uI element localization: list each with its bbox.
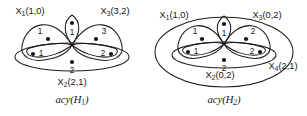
vertex-label-bottom: 2 xyxy=(70,66,75,75)
hyperedge-label-x3: X3(0,2) xyxy=(253,10,282,20)
vertex-label-lower-right: 2 xyxy=(250,47,255,56)
diagram-panel-right: 1 1 2 1 2 2 X1(1,0) X3(0,2) X4(2,1) X2(0… xyxy=(152,0,307,116)
panel-caption-right-text: acy(H xyxy=(207,94,234,106)
hyperedge-label-x2: X2(0,2) xyxy=(206,70,235,80)
hyperedge-label-x3-args: (0,2) xyxy=(262,10,281,20)
hyperedge-label-x2-args: (2,1) xyxy=(67,77,86,87)
diagram-panel-left: 1 1 3 1 2 2 X1(1,0) X3(3,2) X2(2,1) acy(… xyxy=(0,0,152,116)
hyperedge-label-x4: X4(2,1) xyxy=(269,61,298,71)
hyperedge-label-x1-args: (1,0) xyxy=(169,10,188,20)
vertex-label-upper-left: 1 xyxy=(38,27,43,36)
vertex-lower-left xyxy=(186,50,190,54)
vertex-top xyxy=(70,21,74,25)
vertex-label-lower-right: 2 xyxy=(101,49,106,58)
vertex-label-top: 1 xyxy=(70,28,75,37)
vertex-label-lower-left: 1 xyxy=(194,47,199,56)
vertex-upper-right xyxy=(244,37,248,41)
hypergraph-acyclicity-figure: 1 1 3 1 2 2 X1(1,0) X3(3,2) X2(2,1) acy(… xyxy=(0,0,307,116)
panel-caption-right: acy(H2) xyxy=(207,94,241,107)
panel-caption-left: acy(H1) xyxy=(55,94,89,107)
vertex-upper-left xyxy=(46,37,50,41)
vertex-label-lower-left: 1 xyxy=(39,49,44,58)
vertex-upper-right xyxy=(94,37,98,41)
hyperedge-label-x2: X2(2,1) xyxy=(58,77,87,87)
vertex-upper-left xyxy=(200,37,204,41)
vertex-lower-right xyxy=(109,52,113,56)
hyperedge-label-x1: X1(1,0) xyxy=(16,6,45,16)
vertex-label-top: 1 xyxy=(222,29,227,38)
vertex-lower-left xyxy=(31,52,35,56)
panel-caption-left-tail: ) xyxy=(84,94,89,106)
diagram-svg-left: 1 1 3 1 2 2 X1(1,0) X3(3,2) X2(2,1) acy(… xyxy=(0,0,152,116)
hyperedge-label-x1: X1(1,0) xyxy=(160,10,189,20)
hyperedge-label-x1-args: (1,0) xyxy=(25,6,44,16)
hyperedge-label-x3-args: (3,2) xyxy=(110,6,129,16)
hyperedge-label-x3: X3(3,2) xyxy=(101,6,130,16)
vertex-bottom xyxy=(70,60,74,64)
vertex-bottom xyxy=(222,58,226,62)
diagram-svg-right: 1 1 2 1 2 2 X1(1,0) X3(0,2) X4(2,1) X2(0… xyxy=(152,0,307,116)
panel-caption-left-text: acy(H xyxy=(55,94,82,106)
vertex-label-upper-right: 3 xyxy=(102,27,107,36)
vertex-label-upper-left: 1 xyxy=(193,27,198,36)
hyperedge-label-x2-args: (0,2) xyxy=(215,70,234,80)
hyperedge-label-x4-args: (2,1) xyxy=(278,61,297,71)
vertex-label-upper-right: 2 xyxy=(251,27,256,36)
vertex-lower-right xyxy=(258,50,262,54)
panel-caption-right-tail: ) xyxy=(236,94,241,106)
vertex-top xyxy=(222,22,226,26)
